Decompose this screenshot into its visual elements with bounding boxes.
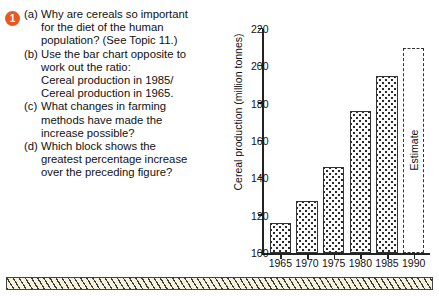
chart-y-tick-label: 160 [251, 135, 254, 147]
chart-plot-area: 1001201401601802002201965197019751980198… [262, 29, 428, 253]
chart-x-tick-label: 1985 [375, 257, 398, 269]
question-number-badge: 1 [5, 11, 20, 26]
chart-y-tick-label: 100 [251, 247, 254, 259]
chart-x-axis [262, 253, 430, 255]
question-item-line: for the diet of the human [41, 21, 214, 34]
chart-bar-1980 [350, 111, 371, 253]
question-item-line: population? (See Topic 11.) [41, 34, 214, 47]
question-item-marker: (a) [24, 8, 41, 48]
question-item: (a)Why are cereals so importantfor the d… [24, 8, 214, 48]
worksheet-page: 1 (a)Why are cereals so importantfor the… [0, 0, 439, 296]
question-item-line: work out the ratio: [41, 61, 214, 74]
question-item-marker: (c) [24, 100, 41, 140]
question-item-line: Cereal production in 1965. [41, 87, 214, 100]
chart-x-tick-label: 1970 [295, 257, 318, 269]
question-block: 1 (a)Why are cereals so importantfor the… [0, 6, 215, 264]
chart-y-tick-label: 120 [251, 210, 254, 222]
chart-bar-1990: Estimate [403, 48, 424, 253]
question-item-line: Use the bar chart opposite to [41, 48, 214, 61]
decorative-hatch-strip [6, 277, 433, 290]
chart-y-tick-label: 220 [251, 23, 254, 35]
chart-bar-1975 [323, 167, 344, 253]
question-item-line: greatest percentage increase [41, 153, 214, 166]
chart-bar-1970 [296, 201, 317, 253]
question-item: (c)What changes in farmingmethods have m… [24, 100, 214, 140]
question-item-marker: (b) [24, 48, 41, 101]
question-item: (b)Use the bar chart opposite towork out… [24, 48, 214, 101]
question-item-text: Why are cereals so importantfor the diet… [41, 8, 214, 48]
question-item-text: What changes in farmingmethods have made… [41, 100, 214, 140]
question-item-line: Why are cereals so important [41, 8, 214, 21]
chart-x-tick-label: 1975 [322, 257, 345, 269]
question-list: (a)Why are cereals so importantfor the d… [24, 8, 214, 180]
question-item: (d)Which block shows thegreatest percent… [24, 140, 214, 180]
chart-y-tick-label: 140 [251, 172, 254, 184]
chart-y-tick-label: 200 [251, 60, 254, 72]
chart-bar-1965 [270, 223, 291, 253]
chart-estimate-label: Estimate [408, 130, 420, 171]
chart-x-tick-label: 1980 [349, 257, 372, 269]
chart-bar-1985 [376, 76, 397, 253]
question-item-line: Which block shows the [41, 140, 214, 153]
question-item-line: methods have made the [41, 114, 214, 127]
question-item-line: Cereal production in 1985/ [41, 74, 214, 87]
question-item-line: increase possible? [41, 127, 214, 140]
question-item-marker: (d) [24, 140, 41, 180]
chart-x-tick-label: 1990 [402, 257, 425, 269]
question-item-text: Use the bar chart opposite towork out th… [41, 48, 214, 101]
bar-chart: Cereal production (million tonnes) 10012… [216, 10, 439, 272]
question-item-line: over the preceding figure? [41, 166, 214, 179]
question-item-line: What changes in farming [41, 100, 214, 113]
question-item-text: Which block shows thegreatest percentage… [41, 140, 214, 180]
chart-y-axis-label: Cereal production (million tonnes) [232, 27, 244, 197]
chart-y-tick-label: 180 [251, 98, 254, 110]
chart-x-tick-label: 1965 [269, 257, 292, 269]
